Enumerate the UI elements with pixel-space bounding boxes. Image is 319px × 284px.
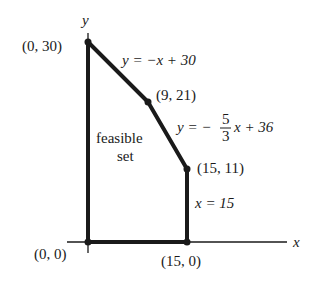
constraint-label-3: x = 15 <box>194 195 235 211</box>
constraint-label-2-post: x + 36 <box>233 119 274 135</box>
vertex-label-origin: (0, 0) <box>34 246 67 263</box>
vertex-label-9-21: (9, 21) <box>156 87 196 104</box>
constraint-label-2-frac-den: 3 <box>222 128 230 144</box>
constraint-label-2-pre: y = − <box>175 119 211 135</box>
vertex-origin <box>85 239 92 246</box>
constraint-label-1: y = −x + 30 <box>120 52 196 68</box>
y-axis-label: y <box>80 12 89 28</box>
constraint-label-2-frac-num: 5 <box>222 111 230 127</box>
feasible-set-diagram: y x (0, 0) (0, 30) (9, 21) (15, 11) (15,… <box>0 0 319 284</box>
region-label-line1: feasible <box>96 130 143 146</box>
x-axis-label: x <box>292 234 300 250</box>
vertex-label-15-11: (15, 11) <box>197 160 244 177</box>
vertex-label-0-30: (0, 30) <box>22 38 62 55</box>
vertex-0-30 <box>85 39 92 46</box>
vertex-label-15-0: (15, 0) <box>161 253 201 270</box>
vertex-15-11 <box>184 166 191 173</box>
vertex-9-21 <box>145 99 152 106</box>
vertex-15-0 <box>184 239 191 246</box>
region-label-line2: set <box>117 148 134 164</box>
